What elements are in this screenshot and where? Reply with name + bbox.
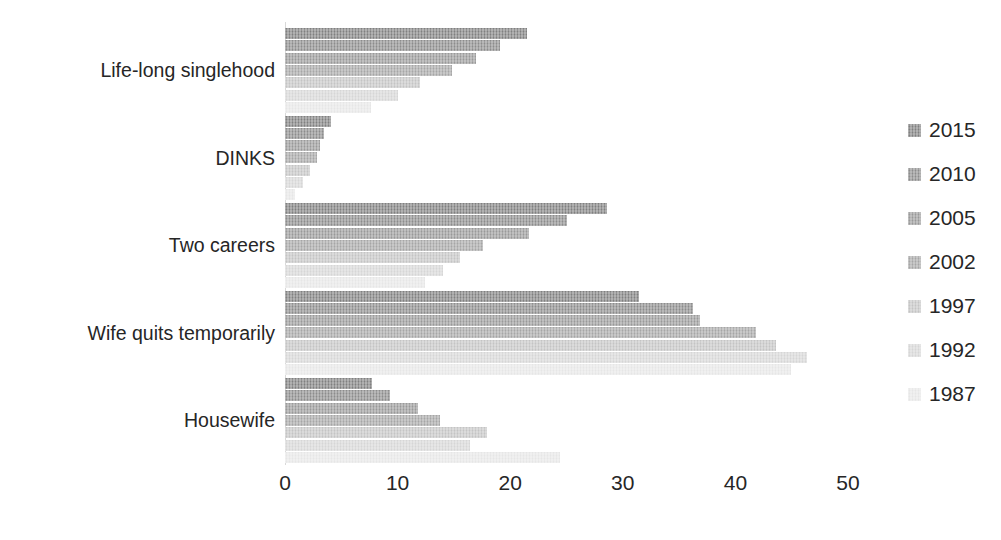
legend-swatch-icon [908,124,921,137]
bar[interactable] [285,128,324,139]
bar[interactable] [285,303,693,314]
legend-item[interactable]: 1987 [908,372,998,416]
y-axis-label: Wife quits temporarily [15,322,275,344]
legend-item[interactable]: 2015 [908,108,998,152]
bar[interactable] [285,40,500,51]
legend-swatch-icon [908,300,921,313]
legend-swatch-icon [908,168,921,181]
bar-chart: Life-long singlehoodDINKSTwo careersWife… [0,0,1001,540]
bar[interactable] [285,378,372,389]
legend-label: 2010 [929,162,976,186]
bar[interactable] [285,240,483,251]
bar[interactable] [285,116,331,127]
bar-group [285,116,885,202]
bar[interactable] [285,102,371,113]
bar[interactable] [285,77,420,88]
bar[interactable] [285,327,756,338]
bar[interactable] [285,65,452,76]
bar[interactable] [285,228,529,239]
x-axis-tick-label: 50 [836,470,859,496]
bar[interactable] [285,177,303,188]
legend-label: 2015 [929,118,976,142]
bar[interactable] [285,28,527,39]
y-axis-label: Two careers [15,234,275,256]
bar[interactable] [285,340,776,351]
bar[interactable] [285,352,807,363]
bar[interactable] [285,189,295,200]
x-axis-tick-label: 30 [611,470,634,496]
legend-item[interactable]: 1992 [908,328,998,372]
legend-swatch-icon [908,388,921,401]
bar[interactable] [285,252,460,263]
bar[interactable] [285,364,791,375]
legend-swatch-icon [908,344,921,357]
bar[interactable] [285,427,487,438]
legend: 2015201020052002199719921987 [908,108,998,416]
y-axis-category-labels: Life-long singlehoodDINKSTwo careersWife… [0,22,275,465]
bar[interactable] [285,140,320,151]
y-axis-label: Housewife [15,409,275,431]
x-axis-tick-label: 10 [386,470,409,496]
legend-item[interactable]: 2002 [908,240,998,284]
legend-label: 1987 [929,382,976,406]
bar[interactable] [285,315,700,326]
bar-group [285,378,885,464]
legend-label: 2002 [929,250,976,274]
legend-swatch-icon [908,256,921,269]
bar[interactable] [285,203,607,214]
legend-item[interactable]: 2005 [908,196,998,240]
bar-group [285,203,885,289]
legend-label: 2005 [929,206,976,230]
legend-label: 1997 [929,294,976,318]
bar[interactable] [285,165,310,176]
x-axis-tick-label: 40 [724,470,747,496]
bar[interactable] [285,291,639,302]
bar[interactable] [285,440,470,451]
bar[interactable] [285,152,317,163]
legend-label: 1992 [929,338,976,362]
x-axis-tick-label: 20 [499,470,522,496]
bar[interactable] [285,277,425,288]
plot-area [285,22,885,465]
legend-item[interactable]: 2010 [908,152,998,196]
y-axis-label: Life-long singlehood [15,59,275,81]
bar[interactable] [285,90,398,101]
bar[interactable] [285,452,560,463]
x-axis-tick-label: 0 [279,470,291,496]
bar[interactable] [285,53,476,64]
legend-swatch-icon [908,212,921,225]
bar[interactable] [285,265,443,276]
bar[interactable] [285,415,440,426]
bar[interactable] [285,215,567,226]
bar[interactable] [285,403,418,414]
bar[interactable] [285,390,390,401]
y-axis-label: DINKS [15,147,275,169]
legend-item[interactable]: 1997 [908,284,998,328]
x-axis-tick-labels: 01020304050 [285,470,885,504]
bar-group [285,291,885,377]
bar-group [285,28,885,114]
